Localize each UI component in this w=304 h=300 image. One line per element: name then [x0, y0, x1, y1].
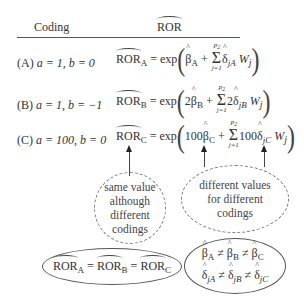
formula-a: RORA = exp(βA + Σp2j=1δjA Wj): [116, 46, 259, 73]
formula-b: RORB = exp(2βB + Σp2j=12δjB Wj): [116, 88, 270, 115]
summary-coef-differ: βA ≠ βB ≠ βC δjA ≠ δjB ≠ δjC: [184, 238, 286, 294]
row-c: (C) a = 100, b = 0: [17, 133, 106, 148]
arrow-beta: [204, 151, 205, 167]
header-coding: Coding: [34, 20, 69, 35]
row-b: (B) a = 1, b = −1: [17, 98, 102, 113]
note-different-values: different valuesfor differentcodings: [181, 165, 289, 233]
arrow-delta: [264, 151, 265, 167]
header-rule: [17, 37, 240, 38]
summary-ror-equal: RORA = RORB = RORC: [42, 248, 182, 285]
note-same-value: same valuealthoughdifferentcodings: [94, 172, 166, 244]
row-a: (A) a = 1, b = 0: [17, 56, 95, 71]
header-ror: ROR: [157, 20, 182, 35]
